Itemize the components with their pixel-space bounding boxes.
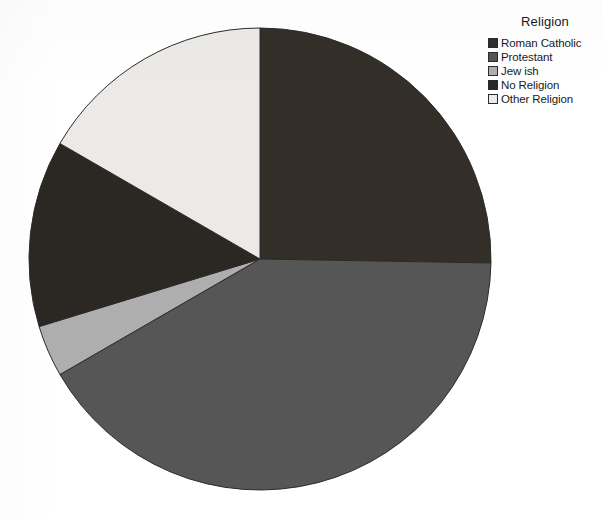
legend-item-label: Roman Catholic xyxy=(501,37,581,50)
legend-title: Religion xyxy=(488,14,602,29)
legend-item-label: No Religion xyxy=(501,79,559,92)
legend-item[interactable]: No Religion xyxy=(488,78,602,92)
pie-chart-figure: Religion Roman CatholicProtestantJew ish… xyxy=(0,0,602,519)
legend-swatch-icon xyxy=(488,52,498,62)
legend-item[interactable]: Other Religion xyxy=(488,92,602,106)
legend: Religion Roman CatholicProtestantJew ish… xyxy=(488,14,602,106)
pie-slice-group xyxy=(29,28,491,490)
legend-item[interactable]: Roman Catholic xyxy=(488,36,602,50)
legend-list: Roman CatholicProtestantJew ishNo Religi… xyxy=(488,36,602,106)
legend-swatch-icon xyxy=(488,38,498,48)
legend-item-label: Protestant xyxy=(501,51,552,64)
pie-plot-area xyxy=(0,0,520,519)
legend-item-label: Other Religion xyxy=(501,93,573,106)
pie-slice-roman-catholic[interactable] xyxy=(260,28,491,263)
pie-svg xyxy=(0,0,520,519)
legend-item[interactable]: Protestant xyxy=(488,50,602,64)
legend-swatch-icon xyxy=(488,94,498,104)
legend-item-label: Jew ish xyxy=(501,65,539,78)
legend-swatch-icon xyxy=(488,66,498,76)
legend-item[interactable]: Jew ish xyxy=(488,64,602,78)
legend-swatch-icon xyxy=(488,80,498,90)
